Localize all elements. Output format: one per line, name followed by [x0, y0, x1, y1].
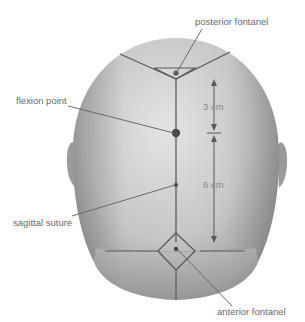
label-posterior-fontanel: posterior fontanel — [195, 17, 268, 27]
label-flexion-point: flexion point — [16, 96, 67, 106]
label-sagittal-suture: sagittal suture — [13, 218, 72, 228]
head-illustration — [0, 0, 305, 322]
fetal-head-diagram: posterior fontanel flexion point sagitta… — [0, 0, 305, 322]
measurement-label-6cm: 6 cm — [203, 180, 224, 190]
label-anterior-fontanel: anterior fontanel — [217, 307, 286, 317]
measurement-label-3cm: 3 cm — [203, 102, 224, 112]
anterior-fontanel-dot — [174, 247, 178, 251]
